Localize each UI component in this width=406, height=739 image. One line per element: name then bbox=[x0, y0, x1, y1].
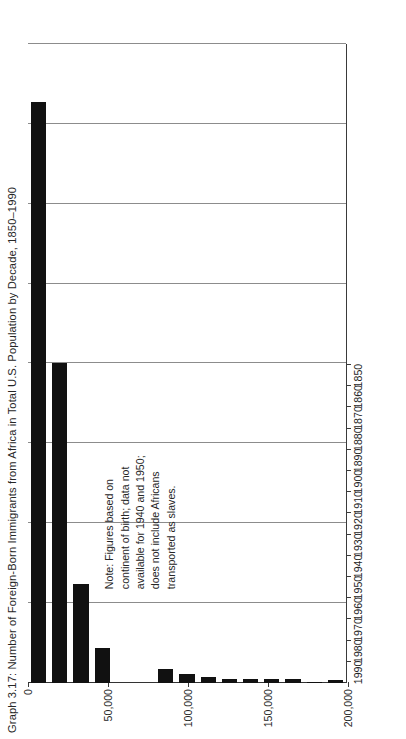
bar-row bbox=[222, 44, 237, 683]
chart-note: Note: Figures based on continent of birt… bbox=[102, 455, 179, 589]
bar-row bbox=[307, 44, 322, 683]
bar-row bbox=[179, 44, 194, 683]
category-tick bbox=[346, 491, 351, 492]
bar-series bbox=[28, 44, 346, 683]
category-label-1990: 1990 bbox=[352, 661, 364, 685]
value-axis-labels: 050,000100,000150,000200,000250,000300,0… bbox=[28, 689, 346, 739]
bar-1920 bbox=[179, 674, 194, 683]
bar-1980 bbox=[52, 364, 67, 684]
bar-row bbox=[243, 44, 258, 683]
plot-area: Note: Figures based on continent of birt… bbox=[28, 44, 346, 683]
value-axis-label: 100,000 bbox=[182, 689, 194, 727]
bar-row bbox=[52, 44, 67, 683]
category-tick bbox=[346, 555, 351, 556]
bar-row bbox=[31, 44, 46, 683]
category-tick bbox=[346, 406, 351, 407]
bar-1970 bbox=[73, 584, 88, 683]
category-tick bbox=[346, 576, 351, 577]
bar-row bbox=[73, 44, 88, 683]
value-axis-label: 150,000 bbox=[262, 689, 274, 727]
category-tick bbox=[346, 449, 351, 450]
value-axis-label: 50,000 bbox=[102, 689, 114, 721]
category-tick bbox=[346, 470, 351, 471]
chart-title: Graph 3.17: Number of Foreign-Born Immig… bbox=[6, 187, 18, 733]
category-tick bbox=[346, 597, 351, 598]
rotated-page-canvas: Graph 3.17: Number of Foreign-Born Immig… bbox=[0, 0, 406, 739]
category-tick bbox=[346, 640, 351, 641]
bar-1880 bbox=[264, 680, 279, 684]
category-tick bbox=[346, 385, 351, 386]
category-tick bbox=[346, 428, 351, 429]
bar-1900 bbox=[222, 679, 237, 683]
bar-1960 bbox=[95, 648, 110, 683]
bar-row bbox=[285, 44, 300, 683]
bar-1930 bbox=[158, 669, 173, 683]
value-axis-label: 200,000 bbox=[342, 689, 354, 727]
category-tick bbox=[346, 618, 351, 619]
bar-row bbox=[328, 44, 343, 683]
bar-1870 bbox=[285, 679, 300, 683]
bar-row bbox=[264, 44, 279, 683]
value-axis-label: 0 bbox=[22, 689, 34, 695]
category-tick bbox=[346, 661, 351, 662]
bar-1910 bbox=[201, 677, 216, 683]
category-tick bbox=[346, 364, 351, 365]
bar-1860 bbox=[307, 682, 322, 683]
value-tick bbox=[348, 682, 349, 687]
bar-1850 bbox=[328, 680, 343, 683]
bar-1890 bbox=[243, 680, 258, 684]
bar-1990 bbox=[31, 102, 46, 683]
category-tick bbox=[346, 512, 351, 513]
category-tick bbox=[346, 534, 351, 535]
bar-row bbox=[201, 44, 216, 683]
chart-figure: Graph 3.17: Number of Foreign-Born Immig… bbox=[0, 0, 406, 739]
